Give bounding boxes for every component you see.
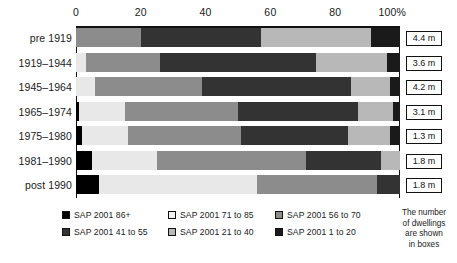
legend-item: SAP 2001 86+ — [62, 210, 131, 220]
bar-segment — [358, 102, 394, 121]
legend-item: SAP 2001 71 to 85 — [168, 210, 254, 220]
bar-row — [76, 175, 400, 194]
note-line-3: are shown — [392, 229, 456, 240]
legend-swatch-icon — [168, 211, 176, 219]
legend-item: SAP 2001 41 to 55 — [62, 227, 148, 237]
stacked-bar — [76, 28, 400, 47]
dwelling-count-box: 4.4 m — [406, 31, 442, 46]
legend-swatch-icon — [275, 228, 283, 236]
bar-segment — [82, 126, 127, 145]
legend-item: SAP 2001 21 to 40 — [168, 227, 254, 237]
bar-row — [76, 151, 400, 170]
legend-swatch-icon — [62, 228, 70, 236]
stacked-bar — [76, 175, 400, 194]
bar-row — [76, 77, 400, 96]
row-label: 1965–1974 — [0, 106, 72, 118]
stacked-bar — [76, 102, 400, 121]
legend-swatch-icon — [275, 211, 283, 219]
dwelling-count-box: 3.1 m — [406, 105, 442, 120]
dwelling-count-box: 4.2 m — [406, 80, 442, 95]
bar-segment — [157, 151, 306, 170]
bar-segment — [371, 28, 400, 47]
bar-segment — [390, 77, 400, 96]
row-label: pre 1919 — [0, 32, 72, 44]
note-line-4: in boxes — [392, 240, 456, 251]
bar-segment — [238, 102, 358, 121]
legend-label: SAP 2001 1 to 20 — [287, 227, 356, 237]
bar-segment — [76, 28, 141, 47]
x-axis-tick-100: 100% — [378, 6, 406, 18]
row-label: 1919–1944 — [0, 57, 72, 69]
bar-segment — [381, 151, 400, 170]
x-axis-tick-40: 40 — [200, 6, 212, 18]
x-axis-tick-60: 60 — [264, 6, 276, 18]
bar-segment — [348, 126, 390, 145]
bar-segment — [141, 28, 261, 47]
bar-segment — [316, 53, 387, 72]
bar-segment — [393, 102, 399, 121]
bar-segment — [261, 28, 371, 47]
dwelling-count-box: 1.8 m — [406, 178, 442, 193]
chart-page: 020406080100% pre 19191919–19441945–1964… — [0, 0, 457, 263]
dwelling-count-box: 3.6 m — [406, 56, 442, 71]
x-axis-labels: 020406080100% — [76, 6, 400, 24]
stacked-bar — [76, 77, 400, 96]
bar-segment — [128, 126, 241, 145]
x-axis-tick-20: 20 — [135, 6, 147, 18]
row-label: 1975–1980 — [0, 130, 72, 142]
bar-segment — [387, 53, 400, 72]
bar-row — [76, 28, 400, 47]
bar-segment — [76, 53, 86, 72]
legend: SAP 2001 86+SAP 2001 71 to 85SAP 2001 56… — [62, 210, 382, 244]
legend-label: SAP 2001 71 to 85 — [180, 210, 254, 220]
dwelling-count-box: 1.3 m — [406, 129, 442, 144]
x-axis-tick-0: 0 — [73, 6, 79, 18]
bar-segment — [76, 151, 92, 170]
stacked-bar — [76, 151, 400, 170]
legend-label: SAP 2001 86+ — [74, 210, 131, 220]
bar-row — [76, 53, 400, 72]
bar-segment — [76, 175, 99, 194]
note-line-1: The number — [392, 208, 456, 219]
legend-label: SAP 2001 21 to 40 — [180, 227, 254, 237]
legend-label: SAP 2001 41 to 55 — [74, 227, 148, 237]
row-label: 1945–1964 — [0, 81, 72, 93]
bar-segment — [306, 151, 381, 170]
bar-segment — [390, 126, 400, 145]
bar-segment — [160, 53, 316, 72]
legend-note: The number of dwellings are shown in box… — [392, 208, 456, 250]
bar-segment — [377, 175, 400, 194]
bar-segment — [76, 77, 95, 96]
y-axis-labels: pre 19191919–19441945–19641965–19741975–… — [0, 26, 72, 198]
bar-row — [76, 126, 400, 145]
row-label: post 1990 — [0, 179, 72, 191]
x-axis-tick-80: 80 — [329, 6, 341, 18]
legend-swatch-icon — [62, 211, 70, 219]
legend-swatch-icon — [168, 228, 176, 236]
bar-segment — [125, 102, 238, 121]
dwelling-count-boxes: 4.4 m3.6 m4.2 m3.1 m1.3 m1.8 m1.8 m — [406, 26, 450, 198]
bar-segment — [202, 77, 351, 96]
bar-segment — [99, 175, 258, 194]
bar-segment — [351, 77, 390, 96]
row-label: 1981–1990 — [0, 155, 72, 167]
note-line-2: of dwellings — [392, 219, 456, 230]
bar-segment — [86, 53, 161, 72]
bar-segment — [92, 151, 157, 170]
stacked-bar — [76, 126, 400, 145]
legend-item: SAP 2001 56 to 70 — [275, 210, 361, 220]
stacked-bar — [76, 53, 400, 72]
dwelling-count-box: 1.8 m — [406, 154, 442, 169]
legend-label: SAP 2001 56 to 70 — [287, 210, 361, 220]
bar-segment — [79, 102, 124, 121]
stacked-bar-plot — [76, 26, 400, 198]
bar-segment — [95, 77, 202, 96]
bar-segment — [241, 126, 348, 145]
bar-row — [76, 102, 400, 121]
legend-item: SAP 2001 1 to 20 — [275, 227, 356, 237]
bar-segment — [257, 175, 377, 194]
